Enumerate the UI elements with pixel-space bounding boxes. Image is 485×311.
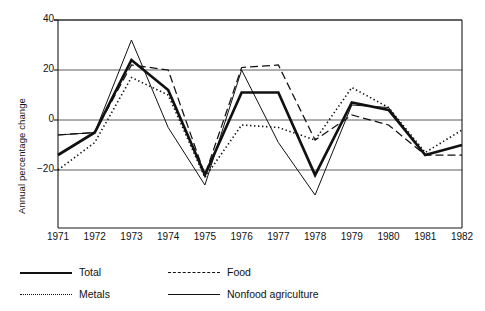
legend-item-metals: Metals xyxy=(20,284,110,304)
legend-label: Metals xyxy=(79,288,110,300)
series-line-total xyxy=(58,60,462,175)
legend-swatch-total xyxy=(20,266,72,278)
legend-label: Food xyxy=(227,266,251,278)
chart-legend: TotalFoodMetalsNonfood agriculture xyxy=(20,262,350,306)
series-line-nonfood-agriculture xyxy=(58,40,462,195)
legend-label: Nonfood agriculture xyxy=(227,288,319,300)
legend-item-food: Food xyxy=(168,262,251,282)
chart-figure: Annual percentage change 40200−20 197119… xyxy=(0,0,485,311)
legend-item-nonfood-agriculture: Nonfood agriculture xyxy=(168,284,319,304)
legend-label: Total xyxy=(79,266,101,278)
legend-swatch-food xyxy=(168,266,220,278)
legend-item-total: Total xyxy=(20,262,101,282)
legend-swatch-nonfood-agriculture xyxy=(168,288,220,300)
legend-swatch-metals xyxy=(20,288,72,300)
